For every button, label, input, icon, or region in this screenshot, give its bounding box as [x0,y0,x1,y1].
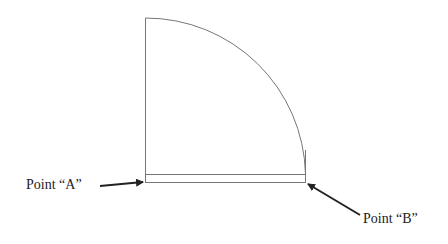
arrow-b [308,184,360,215]
point-a-label: Point “A” [26,177,82,193]
swing-arc [146,18,306,174]
point-b-label: Point “B” [363,211,418,227]
arrow-a [100,182,143,186]
threshold-rect [146,175,306,183]
door-swing-diagram: Point “A” Point “B” [0,0,448,244]
diagram-canvas [0,0,448,244]
